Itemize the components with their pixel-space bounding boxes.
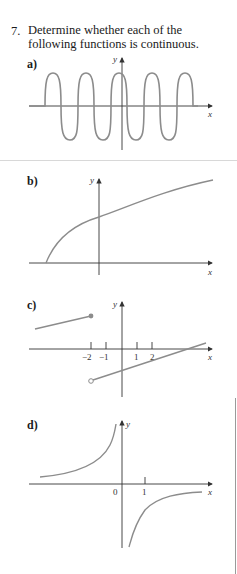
x-axis-label: x	[207, 267, 212, 277]
y-axis-label: y	[112, 54, 117, 64]
x-axis-label: x	[207, 487, 212, 497]
graph-b: x y	[0, 160, 237, 280]
y-axis-label: y	[89, 175, 94, 185]
closed-dot	[89, 314, 94, 319]
open-dot	[89, 379, 94, 384]
graph-c: x y −2 −1 1 2	[0, 280, 237, 400]
right-branch	[129, 492, 202, 547]
graph-d: x y 0 1	[0, 400, 237, 574]
x-axis-label: x	[207, 109, 212, 119]
upper-segment	[35, 316, 91, 329]
graph-a: x y	[0, 0, 237, 160]
x-axis-label: x	[207, 352, 212, 362]
tick-label: 0	[113, 487, 118, 497]
y-axis-label: y	[112, 299, 117, 309]
sqrt-curve	[46, 180, 213, 263]
tick-label: 1	[134, 352, 139, 362]
y-axis-label: y	[125, 419, 130, 429]
tick-label: −1	[99, 352, 109, 362]
right-border	[235, 398, 236, 574]
tick-label: 1	[142, 487, 147, 497]
left-branch	[40, 424, 116, 477]
wave-curve	[29, 73, 198, 140]
tick-label: −2	[82, 352, 92, 362]
